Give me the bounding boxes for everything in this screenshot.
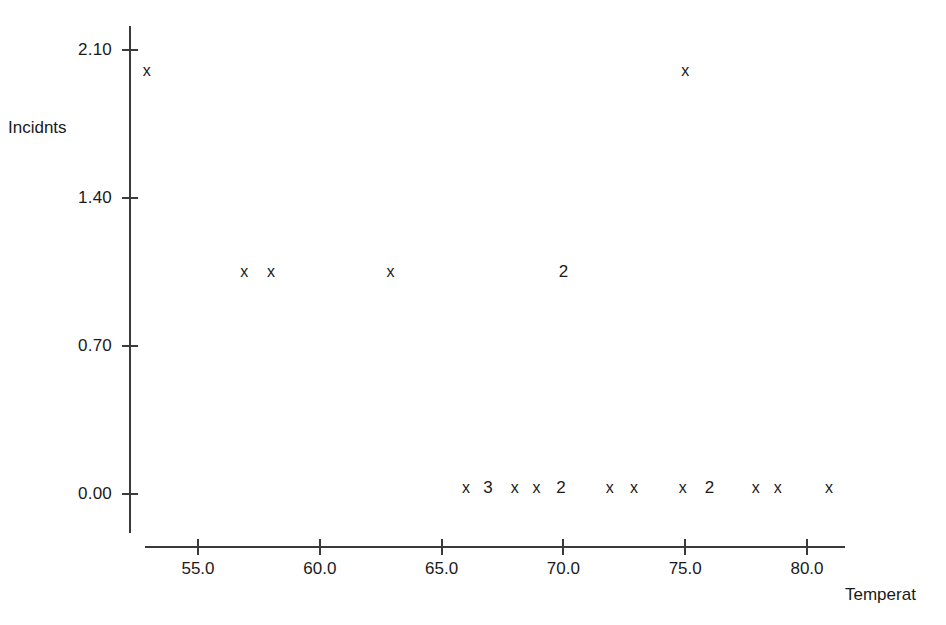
y-axis-tick-label-wrap: 2.10 [52, 41, 112, 58]
y-axis-tick [122, 493, 138, 495]
y-axis-title: Incidnts [8, 118, 67, 137]
x-axis-tick-label: 65.0 [402, 559, 482, 578]
data-point-marker: x [623, 480, 645, 496]
x-axis-tick-label: 55.0 [158, 559, 238, 578]
data-point-marker: x [504, 480, 526, 496]
x-axis-line [145, 546, 845, 548]
data-point-count-marker: 2 [550, 480, 572, 496]
scatter-plot-canvas: 2.101.400.700.00 55.060.065.070.075.080.… [0, 0, 946, 625]
data-point-marker: x [818, 480, 840, 496]
data-point-marker: x [674, 63, 696, 79]
x-axis-tick [197, 539, 199, 555]
data-point-marker: x [260, 264, 282, 280]
x-axis-tick-label: 80.0 [767, 559, 847, 578]
data-point-marker: x [599, 480, 621, 496]
x-axis-tick-label: 75.0 [645, 559, 725, 578]
data-point-count-marker: 2 [552, 264, 574, 280]
data-point-marker: x [745, 480, 767, 496]
y-axis-tick [122, 345, 138, 347]
y-axis-tick-label-wrap: 1.40 [52, 189, 112, 206]
x-axis-tick [441, 539, 443, 555]
y-axis-tick-label: 2.10 [52, 41, 112, 58]
data-point-marker: x [455, 480, 477, 496]
x-axis-tick-label: 70.0 [523, 559, 603, 578]
data-point-marker: x [526, 480, 548, 496]
data-point-count-marker: 3 [477, 480, 499, 496]
data-point-marker: x [136, 63, 158, 79]
data-point-marker: x [672, 480, 694, 496]
x-axis-tick-label: 60.0 [280, 559, 360, 578]
y-axis-tick [122, 49, 138, 51]
y-axis-tick-label: 1.40 [52, 189, 112, 206]
y-axis-tick [122, 197, 138, 199]
data-point-marker: x [379, 264, 401, 280]
y-axis-tick-label: 0.70 [52, 337, 112, 354]
y-axis-tick-label-wrap: 0.70 [52, 337, 112, 354]
y-axis-tick-label-wrap: 0.00 [52, 485, 112, 502]
x-axis-tick [319, 539, 321, 555]
data-point-marker: x [233, 264, 255, 280]
x-axis-tick [806, 539, 808, 555]
x-axis-tick [562, 539, 564, 555]
data-point-marker: x [767, 480, 789, 496]
data-point-count-marker: 2 [699, 480, 721, 496]
x-axis-tick [684, 539, 686, 555]
x-axis-title: Temperat [845, 585, 916, 604]
y-axis-line [129, 26, 131, 533]
y-axis-tick-label: 0.00 [52, 485, 112, 502]
